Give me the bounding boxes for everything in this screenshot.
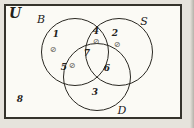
set-label-s: S [140, 16, 148, 27]
empty-mark-region-1: ⊘ [50, 46, 57, 54]
set-label-d: D [118, 105, 127, 116]
region-label-8: 8 [17, 95, 23, 104]
empty-mark-region-5: ⊘ [69, 62, 76, 70]
circle-set-d [63, 43, 131, 111]
region-label-1: 1 [53, 30, 59, 39]
region-label-4: 4 [93, 27, 99, 36]
region-label-3: 3 [92, 88, 98, 97]
region-label-5: 5 [61, 63, 67, 72]
empty-mark-region-4: ⊘ [93, 38, 100, 46]
empty-mark-region-2: ⊘ [114, 41, 121, 49]
region-label-2: 2 [112, 29, 118, 38]
universal-set-label: U [9, 6, 21, 20]
region-label-7: 7 [84, 49, 90, 58]
scan-edge-shadow [190, 0, 194, 128]
set-label-b: B [37, 14, 45, 25]
region-label-6: 6 [104, 64, 110, 73]
venn-diagram-figure: U B S D 1 ⊘ 2 ⊘ 3 4 ⊘ 5 ⊘ 6 7 8 [0, 0, 194, 128]
